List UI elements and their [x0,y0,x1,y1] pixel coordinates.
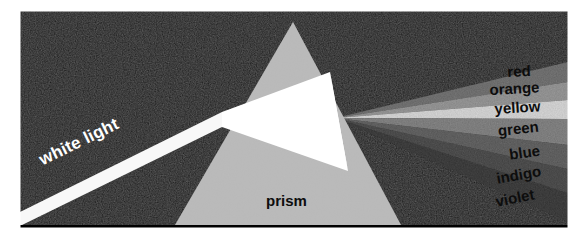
photo-plate [20,11,568,228]
prism-dispersion-figure: white light prism red orange yellow gree… [0,0,588,240]
diagram-canvas [0,0,588,240]
